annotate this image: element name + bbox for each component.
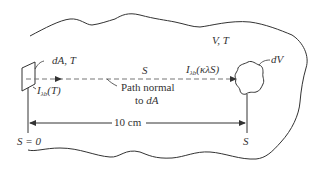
enclosure-label: V, T xyxy=(212,35,229,46)
arrived-intensity-argument: (κλS) xyxy=(196,63,219,75)
path-note-line2: to dA xyxy=(135,95,159,106)
emitted-intensity-leader xyxy=(33,87,36,89)
path-note-line1: Path normal xyxy=(121,82,174,93)
path-arrowhead-mid xyxy=(55,76,62,82)
volume-element-shape xyxy=(235,61,264,94)
dimension-arrow-right xyxy=(239,120,246,126)
end-position-label: S xyxy=(243,136,249,147)
distance-label: 10 cm xyxy=(114,117,141,128)
surface-element-shape xyxy=(22,62,35,91)
dA-leader xyxy=(35,61,44,69)
volume-element-label: dV xyxy=(271,54,283,65)
path-note-prefix: to xyxy=(135,94,146,106)
emitted-intensity-argument: (T) xyxy=(47,84,60,96)
dV-leader xyxy=(259,60,270,65)
arrived-intensity-label: Iλb(κλS) xyxy=(186,64,219,77)
path-note-variable: dA xyxy=(146,94,158,106)
path-variable-label: S xyxy=(142,65,148,76)
emitted-intensity-label: Iλb(T) xyxy=(37,85,61,98)
dimension-arrow-left xyxy=(29,120,36,126)
start-position-label: S = 0 xyxy=(17,136,41,147)
surface-element-label: dA, T xyxy=(52,55,76,66)
path-note-leader xyxy=(107,79,117,86)
